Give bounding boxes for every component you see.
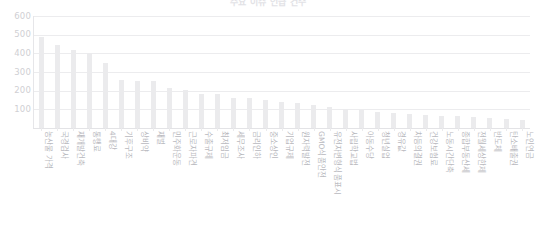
y-tick-label: 400 <box>3 49 31 58</box>
x-axis-label-text: 국경검사 <box>60 131 68 159</box>
x-axis-category-labels: 농산물 가격국경검사재개발건축통행료4대강기후구조상비약재벌민주화운동근로자파견… <box>33 131 530 249</box>
y-tick-label: 200 <box>3 86 31 95</box>
x-axis-label: 기후구조 <box>124 131 132 159</box>
y-tick-label: 500 <box>3 30 31 39</box>
bar <box>119 80 124 128</box>
x-axis-label-text: 탄소배출권 <box>509 131 517 167</box>
bar <box>247 98 252 128</box>
x-axis-label-text: 아동수당 <box>365 131 373 159</box>
bar <box>343 109 348 128</box>
x-axis-label: 최저임금 <box>220 131 228 159</box>
x-axis-label: 재벌 <box>156 131 164 145</box>
x-axis-label: 노동시간단축 <box>445 131 453 174</box>
x-axis-label-text: 재개발건축 <box>76 131 84 167</box>
x-axis-label: 근로자파견 <box>188 131 196 167</box>
x-axis-label-text: 유전자변형식품표시 <box>333 131 341 195</box>
bar-chart: 주요 이슈 언급 건수 600500400300200100 농산물 가격국경검… <box>0 0 536 251</box>
bar <box>199 94 204 128</box>
x-axis-label-text: 경유값 <box>397 131 405 152</box>
bar <box>407 114 412 128</box>
bar <box>455 116 460 128</box>
x-axis-label-text: 4대강 <box>108 131 116 150</box>
x-axis-label-text: 원자력발전 <box>301 131 309 167</box>
x-axis-label-text: 청년실업 <box>381 131 389 159</box>
x-axis-label-text: 농산물 가격 <box>44 131 52 169</box>
bar <box>39 37 44 129</box>
bar <box>183 90 188 129</box>
x-axis-label-text: 상비약 <box>140 131 148 152</box>
x-axis-label: 사립학교법 <box>349 131 357 167</box>
x-axis-label: 아동수당 <box>365 131 373 159</box>
x-axis-label-text: 건강보험료 <box>429 131 437 167</box>
x-axis-label: 통행료 <box>92 131 100 152</box>
bar <box>295 103 300 128</box>
x-axis-label: 상비약 <box>140 131 148 152</box>
x-axis-label: 원자력발전 <box>301 131 309 167</box>
x-axis-label: 유전자변형식품표시 <box>333 131 341 195</box>
x-axis-label-text: 통행료 <box>92 131 100 152</box>
x-axis-label: 건강보험료 <box>429 131 437 167</box>
x-axis-label-text: 차등의결권 <box>413 131 421 167</box>
bar <box>327 107 332 128</box>
y-tick-label: 300 <box>3 68 31 77</box>
bar <box>471 117 476 128</box>
x-axis-label: 전월세상한제 <box>477 131 485 174</box>
x-axis-label-text: 기업규제 <box>285 131 293 159</box>
bar <box>359 110 364 128</box>
x-axis-label: 세무조사 <box>236 131 244 159</box>
bar <box>103 63 108 129</box>
x-axis-label-text: 기후구조 <box>124 131 132 159</box>
bar <box>391 113 396 128</box>
x-axis-label: 민주화운동 <box>172 131 180 167</box>
x-axis-label: 노인연금 <box>525 131 533 159</box>
bars-layer <box>33 16 530 128</box>
y-axis-tick-labels: 600500400300200100 <box>0 16 31 128</box>
x-axis-label: 기업규제 <box>285 131 293 159</box>
x-axis-label-text: 민주화운동 <box>172 131 180 167</box>
x-axis-label-text: 금리인하 <box>252 131 260 159</box>
x-axis-label: 4대강 <box>108 131 116 150</box>
bar <box>71 50 76 128</box>
y-tick-label: 100 <box>3 105 31 114</box>
x-axis-label: 수출규제 <box>204 131 212 159</box>
bar <box>487 118 492 128</box>
x-axis-label: 농산물 가격 <box>44 131 52 169</box>
bar <box>520 120 525 128</box>
x-axis-label: GMO식품안전 <box>317 131 325 178</box>
bar <box>423 115 428 128</box>
x-axis-label-text: 최저임금 <box>220 131 228 159</box>
x-axis-label: 종합부동산세 <box>461 131 469 174</box>
bar <box>87 53 92 128</box>
x-axis-label: 청년실업 <box>381 131 389 159</box>
x-axis-label-text: 재벌 <box>156 131 164 145</box>
bar <box>231 98 236 128</box>
x-axis-label-text: 수출규제 <box>204 131 212 159</box>
bar <box>151 81 156 128</box>
bar <box>135 81 140 128</box>
bar <box>263 100 268 128</box>
x-axis-label: 차등의결권 <box>413 131 421 167</box>
x-axis-label-text: 사립학교법 <box>349 131 357 167</box>
x-axis-label-text: 종합부동산세 <box>461 131 469 174</box>
x-axis-label: 중소상인 <box>269 131 277 159</box>
bar <box>504 119 509 128</box>
bar <box>279 102 284 129</box>
bar <box>375 112 380 128</box>
bar <box>215 94 220 128</box>
bar <box>439 116 444 128</box>
x-axis-label-text: 노인연금 <box>525 131 533 159</box>
x-axis-label-text: 노동시간단축 <box>445 131 453 174</box>
x-axis-label: 금리인하 <box>252 131 260 159</box>
bar <box>55 45 60 128</box>
x-axis-label-text: 반도체 <box>493 131 501 152</box>
bar <box>167 88 172 128</box>
x-axis-label: 반도체 <box>493 131 501 152</box>
x-axis-label: 재개발건축 <box>76 131 84 167</box>
x-axis-label-text: 근로자파견 <box>188 131 196 167</box>
x-axis-label-text: 전월세상한제 <box>477 131 485 174</box>
x-axis-label-text: 중소상인 <box>269 131 277 159</box>
bar <box>311 105 316 129</box>
x-axis-label-text: GMO식품안전 <box>317 131 325 178</box>
x-axis-label: 경유값 <box>397 131 405 152</box>
chart-title: 주요 이슈 언급 건수 <box>0 0 536 7</box>
